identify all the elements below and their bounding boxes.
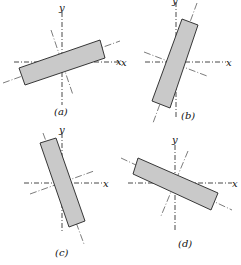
panel-caption: (d)	[178, 238, 192, 249]
x-axis-label: x	[226, 57, 232, 68]
y-axis-label: y	[171, 134, 178, 145]
y-axis-label: y	[58, 124, 65, 135]
x-axis-label: x	[232, 178, 238, 189]
y-axis-label: y	[171, 0, 178, 6]
y-axis-label: y	[58, 2, 65, 13]
panel-caption: (b)	[181, 110, 195, 121]
x-axis-label: x	[103, 178, 109, 189]
cross-section-rectangle	[152, 19, 198, 108]
panel-caption: (c)	[55, 247, 69, 258]
x-axis-label-left: x	[121, 57, 127, 68]
principal-axes-figure: y x (a) y x x (b) y x (c) y x (d)	[0, 0, 241, 265]
cross-section-rectangle	[133, 158, 218, 210]
panel-caption: (a)	[54, 106, 68, 117]
panel-b: y x x (b)	[121, 0, 232, 123]
cross-section-rectangle	[40, 138, 85, 227]
panel-a: y x (a)	[3, 2, 122, 117]
panel-c: y x (c)	[24, 124, 109, 258]
panel-d: y x (d)	[121, 134, 238, 249]
